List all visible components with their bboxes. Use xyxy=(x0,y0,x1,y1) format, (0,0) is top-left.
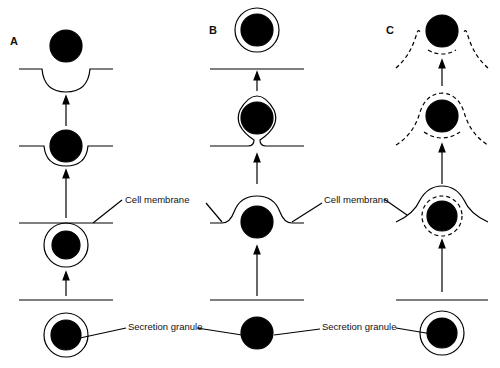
diagram-drawing xyxy=(0,0,500,368)
panel-label-a: A xyxy=(10,36,18,47)
secretion-granule-label-left: Secretion granule xyxy=(128,322,202,332)
panel-label-c: C xyxy=(386,25,394,36)
cell-membrane-label-right: Cell membrane xyxy=(324,195,388,205)
secretion-granule-label-right: Secretion granule xyxy=(322,322,396,332)
secretion-diagram: A B C Cell membrane Cell membrane Secret… xyxy=(0,0,500,368)
panel-label-b: B xyxy=(209,25,217,36)
cell-membrane-label-left: Cell membrane xyxy=(125,195,189,205)
column-a-drawing xyxy=(19,30,113,357)
column-c-drawing xyxy=(396,15,488,355)
column-b-drawing xyxy=(210,8,304,349)
